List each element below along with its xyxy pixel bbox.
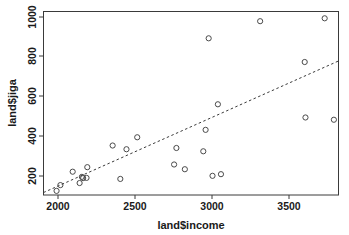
x-tick-label-2500: 2500 — [123, 200, 147, 212]
x-tick-label-2000: 2000 — [46, 200, 70, 212]
x-tick-label-3500: 3500 — [277, 200, 301, 212]
x-axis-title: land$income — [157, 219, 224, 231]
y-tick-label-200: 200 — [26, 167, 38, 185]
y-tick-label-600: 600 — [26, 87, 38, 105]
y-tick-label-1000: 1000 — [26, 5, 38, 29]
y-axis-title: land$jiga — [6, 78, 18, 127]
scatter-plot-figure: 1000 800 600 400 200 land$jiga 2000 2500… — [0, 0, 349, 235]
plot-canvas: 1000 800 600 400 200 land$jiga 2000 2500… — [0, 0, 349, 235]
y-tick-label-400: 400 — [26, 127, 38, 145]
y-tick-label-800: 800 — [26, 47, 38, 65]
x-tick-label-3000: 3000 — [200, 200, 224, 212]
